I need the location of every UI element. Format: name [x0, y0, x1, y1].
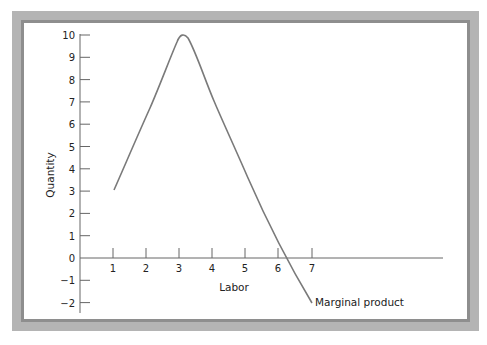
y-tick-label: 0: [69, 253, 75, 264]
y-tick-label: 3: [69, 186, 75, 197]
y-tick-label: 6: [69, 119, 75, 130]
y-tick-label: 5: [69, 142, 75, 153]
x-tick-label: 1: [110, 263, 116, 274]
y-axis-title: Quantity: [44, 152, 56, 197]
y-tick-label: −2: [60, 298, 75, 309]
y-tick-label: 10: [62, 30, 75, 41]
y-ticks: [80, 35, 90, 303]
x-tick-label: 2: [143, 263, 149, 274]
y-tick-label: 4: [69, 164, 75, 175]
x-tick-label: 7: [309, 263, 315, 274]
y-tick-label: 9: [69, 52, 75, 63]
x-tick-label: 4: [209, 263, 215, 274]
chart-canvas: 10 9 8 7 6 5 4 3 2 1 0 −1 −2 Quantity 1 …: [0, 0, 487, 345]
x-tick-labels: 1 2 3 4 5 6 7: [110, 263, 315, 274]
x-tick-label: 3: [176, 263, 182, 274]
y-tick-label: 1: [69, 231, 75, 242]
x-tick-label: 6: [275, 263, 281, 274]
y-tick-labels: 10 9 8 7 6 5 4 3 2 1 0 −1 −2: [60, 30, 75, 309]
y-tick-label: 2: [69, 208, 75, 219]
x-tick-label: 5: [242, 263, 248, 274]
y-tick-label: 8: [69, 75, 75, 86]
curve-label: Marginal product: [315, 296, 404, 308]
y-tick-label: −1: [60, 275, 75, 286]
y-tick-label: 7: [69, 97, 75, 108]
x-axis-title: Labor: [219, 281, 249, 293]
